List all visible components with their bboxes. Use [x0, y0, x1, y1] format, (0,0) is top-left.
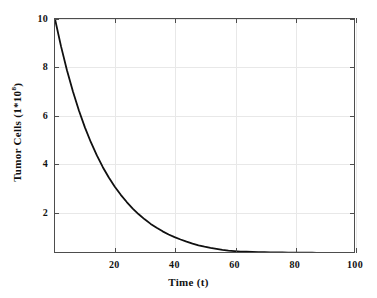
y-tick-mark-right — [350, 19, 355, 20]
x-tick-mark-top — [236, 18, 237, 23]
chart-figure: Tumor Cells (1*108) 20406080100246810 Ti… — [0, 0, 377, 298]
y-tick-mark — [54, 116, 59, 117]
y-axis-title-wrapper: Tumor Cells (1*108) — [4, 0, 30, 265]
x-tick-label: 100 — [347, 259, 363, 270]
y-tick-mark-right — [350, 116, 355, 117]
x-tick-label: 80 — [289, 259, 300, 270]
x-tick-mark — [175, 248, 176, 253]
y-tick-mark — [54, 164, 59, 165]
x-tick-label: 40 — [169, 259, 180, 270]
x-tick-mark-top — [175, 18, 176, 23]
y-tick-label: 6 — [22, 109, 48, 120]
series-layer — [55, 19, 354, 252]
y-tick-label: 10 — [22, 13, 48, 24]
y-tick-mark — [54, 19, 59, 20]
plot-area — [54, 18, 355, 253]
x-tick-mark — [236, 248, 237, 253]
y-tick-label: 8 — [22, 61, 48, 72]
x-axis-title: Time (t) — [0, 276, 377, 288]
gridline-vertical — [356, 19, 357, 252]
y-tick-mark-right — [350, 67, 355, 68]
y-tick-label: 4 — [22, 158, 48, 169]
series-line — [55, 19, 354, 252]
x-tick-mark-top — [296, 18, 297, 23]
x-tick-label: 20 — [109, 259, 120, 270]
y-tick-mark — [54, 213, 59, 214]
y-tick-mark — [54, 67, 59, 68]
x-tick-mark — [115, 248, 116, 253]
x-tick-mark-top — [115, 18, 116, 23]
y-tick-mark-right — [350, 164, 355, 165]
x-tick-mark — [296, 248, 297, 253]
y-tick-mark-right — [350, 213, 355, 214]
y-tick-label: 2 — [22, 206, 48, 217]
x-tick-label: 60 — [229, 259, 240, 270]
x-tick-mark — [356, 248, 357, 253]
x-tick-mark-top — [356, 18, 357, 23]
